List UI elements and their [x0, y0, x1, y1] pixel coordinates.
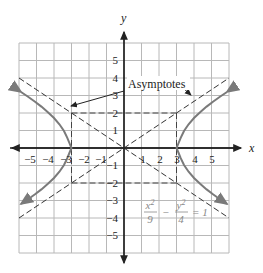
svg-text:2: 2	[113, 107, 119, 119]
svg-text:2: 2	[157, 153, 163, 165]
hyperbola-diagram: x y −5 −4 −3 −2 −1 1 2 3 4 5 5 4 3 2 1 −…	[0, 0, 263, 273]
svg-text:3: 3	[113, 89, 119, 101]
svg-text:1: 1	[113, 124, 119, 136]
asymptotes-label: Asymptotes	[128, 77, 186, 91]
axes	[10, 32, 241, 263]
equation-label: x2 9 − y2 4 = 1	[144, 198, 208, 225]
svg-text:−3: −3	[60, 153, 72, 165]
svg-text:−2: −2	[78, 153, 90, 165]
svg-text:−1: −1	[106, 159, 118, 171]
svg-text:y2: y2	[176, 198, 186, 211]
svg-text:4: 4	[192, 153, 198, 165]
svg-text:= 1: = 1	[192, 206, 208, 218]
svg-text:−2: −2	[106, 177, 118, 189]
svg-text:−5: −5	[24, 153, 36, 165]
svg-text:x2: x2	[145, 198, 155, 211]
x-tick-labels: −5 −4 −3 −2 −1 1 2 3 4 5	[24, 153, 215, 165]
svg-text:5: 5	[113, 54, 119, 66]
svg-text:−3: −3	[106, 194, 118, 206]
svg-text:−4: −4	[106, 212, 118, 224]
y-axis-label: y	[120, 11, 127, 25]
svg-text:−: −	[162, 206, 169, 218]
x-axis-label: x	[248, 141, 255, 155]
svg-text:1: 1	[140, 153, 146, 165]
svg-text:3: 3	[174, 153, 180, 165]
svg-text:−5: −5	[106, 229, 118, 241]
svg-text:−4: −4	[42, 153, 54, 165]
svg-text:4: 4	[178, 213, 184, 225]
svg-text:−1: −1	[95, 153, 107, 165]
svg-text:5: 5	[209, 153, 215, 165]
svg-text:4: 4	[113, 72, 119, 84]
svg-text:9: 9	[147, 213, 153, 225]
